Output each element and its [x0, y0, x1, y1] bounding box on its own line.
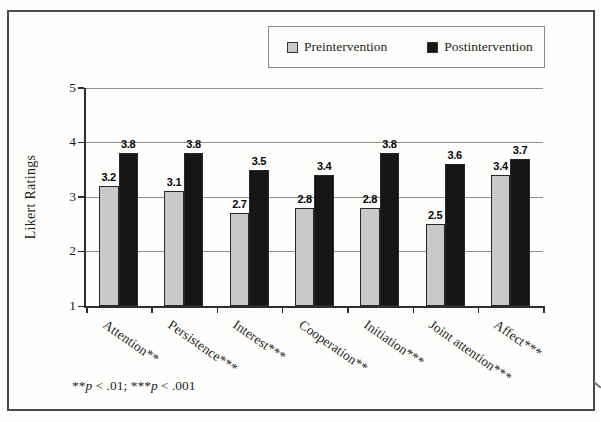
footnote-stars-2: *** [131, 378, 151, 393]
x-tick-mark-1 [151, 308, 153, 313]
y-tick-label-3: 3 [52, 188, 76, 206]
bar-preintervention-3 [230, 213, 250, 306]
x-axis-line [84, 306, 545, 308]
legend-swatch-icon [287, 42, 298, 53]
x-tick-mark-3 [282, 308, 284, 313]
bar-preintervention-6 [426, 224, 446, 306]
legend-item-preintervention: Preintervention [287, 39, 387, 55]
bar-value-postintervention-3: 3.5 [243, 155, 275, 167]
significance-footnote: **p < .01; ***p < .001 [72, 378, 196, 394]
footnote-stars-1: ** [72, 378, 86, 393]
gridline-4 [84, 142, 543, 143]
bar-value-postintervention-4: 3.4 [308, 160, 340, 172]
x-tick-mark-6 [478, 308, 480, 313]
x-tick-mark-0 [86, 308, 88, 313]
legend-label: Postintervention [444, 39, 533, 55]
bar-preintervention-1 [99, 186, 119, 306]
bar-value-postintervention-2: 3.8 [178, 138, 210, 150]
legend-label: Preintervention [304, 39, 387, 55]
bar-preintervention-4 [295, 208, 315, 306]
y-tick-label-1: 1 [52, 297, 76, 315]
y-tick-label-2: 2 [52, 242, 76, 260]
footnote-segment-1: < .01; [92, 378, 130, 393]
y-axis-line [84, 88, 86, 308]
y-tick-label-4: 4 [52, 133, 76, 151]
bar-value-postintervention-1: 3.8 [112, 138, 144, 150]
y-tick-label-5: 5 [52, 79, 76, 97]
bar-value-postintervention-5: 3.8 [373, 138, 405, 150]
footnote-p-2: p [151, 378, 158, 393]
footnote-segment-2: < .001 [158, 378, 196, 393]
y-axis-title: Likert Ratings [23, 155, 39, 240]
legend-swatch-icon [427, 42, 438, 53]
bar-postintervention-7 [510, 159, 530, 306]
bar-postintervention-1 [119, 153, 139, 306]
x-tick-mark-5 [413, 308, 415, 313]
bar-value-postintervention-7: 3.7 [504, 144, 536, 156]
bar-postintervention-3 [249, 170, 269, 307]
bar-postintervention-6 [445, 164, 465, 306]
bar-value-postintervention-6: 3.6 [439, 149, 471, 161]
legend-item-postintervention: Postintervention [427, 39, 533, 55]
bar-preintervention-2 [164, 191, 184, 306]
chart-legend: PreinterventionPostintervention [268, 26, 545, 68]
bar-preintervention-7 [491, 175, 511, 306]
gridline-5 [84, 88, 543, 89]
x-tick-mark-7 [543, 308, 545, 313]
x-tick-mark-2 [217, 308, 219, 313]
bar-postintervention-2 [184, 153, 204, 306]
x-tick-mark-4 [347, 308, 349, 313]
bar-postintervention-4 [314, 175, 334, 306]
bar-preintervention-5 [360, 208, 380, 306]
bar-postintervention-5 [380, 153, 400, 306]
